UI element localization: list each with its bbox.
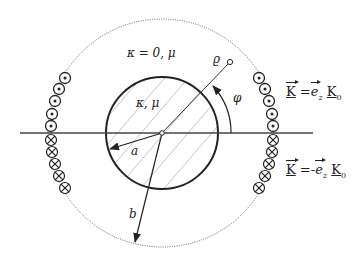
radius-b-arrow [135, 133, 162, 242]
unit-vector-e: e [315, 163, 323, 176]
radius-b-label: b [129, 208, 137, 220]
k-vector: K [286, 163, 296, 176]
rho-point [227, 59, 232, 64]
right-current-in [254, 135, 279, 194]
upper-current-equation: K =ez K0 [286, 85, 342, 102]
cylinder-diagram: κ = 0, μ κ, μ a b ϱ φ K =ez K0 K =-ez K0 [0, 0, 359, 256]
right-current-out [254, 73, 279, 132]
center-point [160, 131, 165, 136]
angle-phi-arc [213, 86, 231, 133]
lower-current-equation: K =-ez K0 [286, 163, 346, 180]
phi-label: φ [233, 92, 241, 104]
left-current-in [46, 135, 71, 194]
k-vector: K [286, 85, 296, 98]
left-current-out [46, 73, 71, 132]
outer-region-label: κ = 0, μ [127, 47, 176, 59]
rho-line [162, 63, 229, 133]
rho-label: ϱ [213, 53, 220, 65]
radius-a-label: a [131, 145, 138, 157]
diagram-graphics [0, 0, 359, 256]
unit-vector-e: e [311, 85, 319, 98]
inner-region-label: κ, μ [136, 97, 159, 109]
